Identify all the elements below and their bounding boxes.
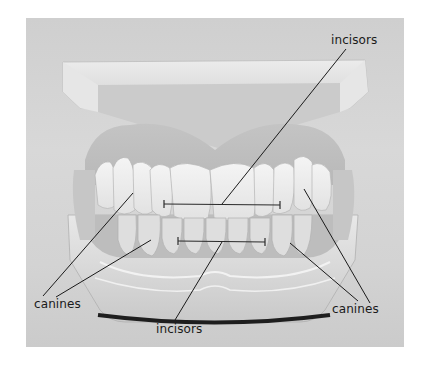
label-canines-left: canines (34, 297, 81, 311)
label-canines-right: canines (332, 302, 379, 316)
lower-teeth (118, 215, 312, 256)
label-incisors-upper: incisors (331, 33, 377, 47)
label-incisors-lower: incisors (156, 322, 202, 336)
